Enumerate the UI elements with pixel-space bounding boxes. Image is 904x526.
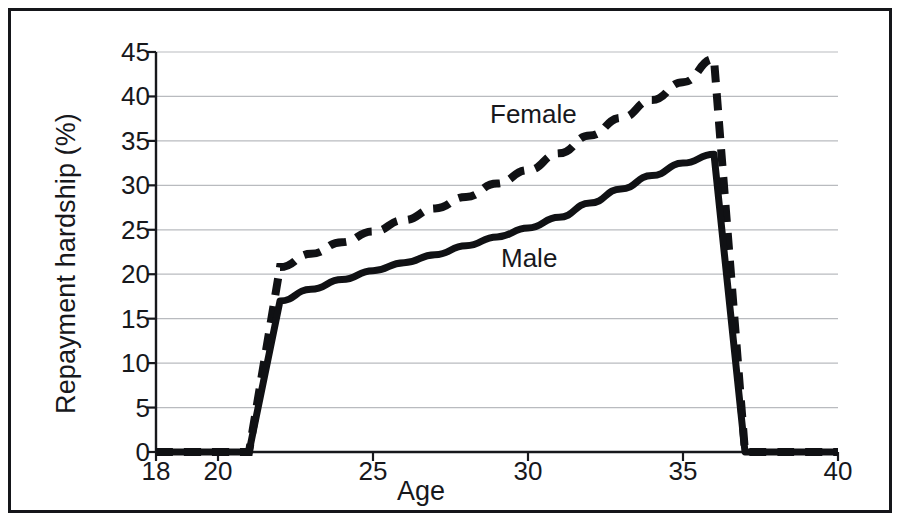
- y-axis-title: Repayment hardship (%): [51, 64, 82, 464]
- figure-canvas: 051015202530354045 182025303540 Repaymen…: [0, 0, 904, 526]
- y-tick-labels: 051015202530354045: [92, 0, 150, 526]
- y-tick-label: 20: [92, 261, 150, 287]
- x-axis-title: Age: [397, 476, 445, 507]
- y-tick-label: 5: [92, 395, 150, 421]
- y-tick-label: 35: [92, 128, 150, 154]
- x-tick-label: 20: [188, 458, 248, 484]
- y-tick-label: 10: [92, 350, 150, 376]
- x-tick-label: 35: [653, 458, 713, 484]
- x-tick-label: 40: [808, 458, 868, 484]
- y-tick-label: 25: [92, 217, 150, 243]
- y-tick-label: 15: [92, 306, 150, 332]
- x-tick-label: 30: [498, 458, 558, 484]
- y-tick-label: 30: [92, 172, 150, 198]
- series-label-female: Female: [490, 101, 577, 127]
- y-tick-label: 40: [92, 83, 150, 109]
- series-label-male: Male: [501, 245, 557, 271]
- x-tick-label: 25: [343, 458, 403, 484]
- x-tick-label: 18: [126, 458, 186, 484]
- y-tick-label: 45: [92, 39, 150, 65]
